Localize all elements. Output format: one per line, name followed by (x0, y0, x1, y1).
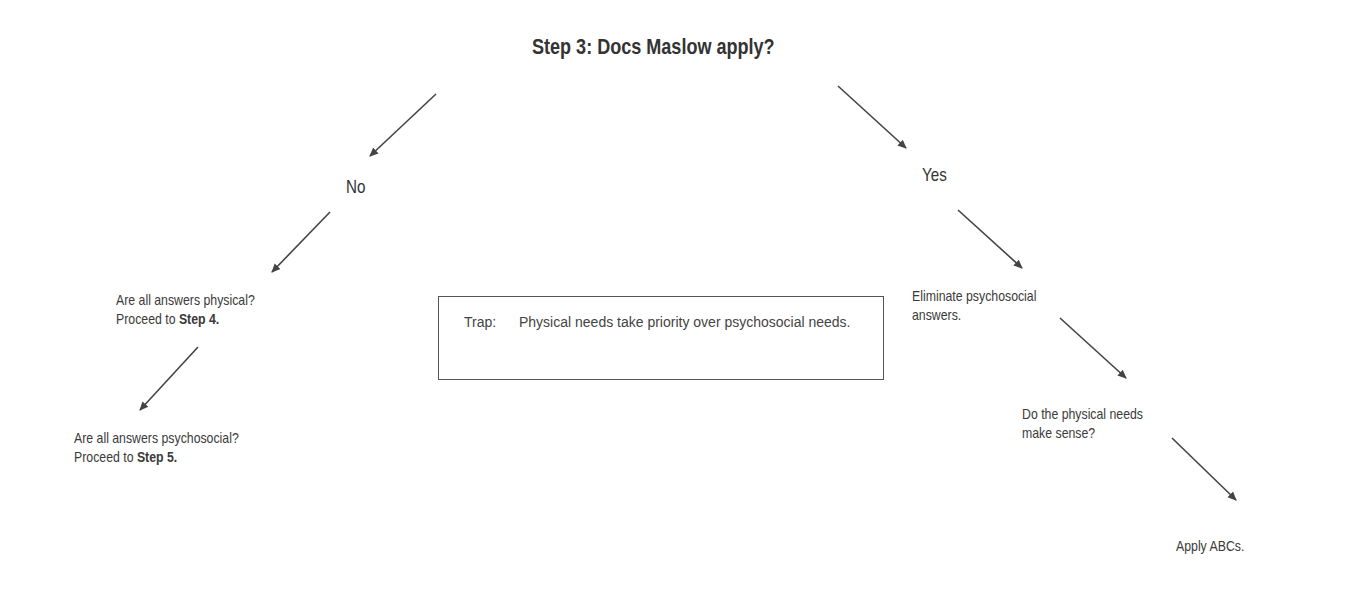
arrow-eliminate-to-physical-needs (1060, 318, 1126, 378)
node-all-psychosocial-question: Are all answers psychosocial? (74, 428, 239, 447)
branch-yes-label: Yes (922, 164, 947, 186)
arrow-title-to-no (370, 94, 436, 156)
arrow-physical-to-psychosocial (140, 347, 198, 410)
trap-callout-box: Trap: Physical needs take priority over … (438, 296, 884, 380)
branch-no-label: No (346, 176, 365, 198)
arrow-no-to-physical (272, 212, 330, 272)
node-eliminate-psychosocial: Eliminate psychosocial answers. (912, 286, 1036, 324)
node-all-physical: Are all answers physical? Proceed to Ste… (116, 290, 255, 328)
node-all-psychosocial-action: Proceed to Step 5. (74, 447, 239, 466)
node-apply-abcs: Apply ABCs. (1176, 536, 1244, 555)
node-all-physical-question: Are all answers physical? (116, 290, 255, 309)
arrow-title-to-yes (838, 86, 906, 148)
node-all-psychosocial: Are all answers psychosocial? Proceed to… (74, 428, 239, 466)
node-all-physical-action: Proceed to Step 4. (116, 309, 255, 328)
diagram-title: Step 3: Docs Maslow apply? (532, 34, 775, 60)
trap-label: Trap: (464, 313, 496, 331)
arrow-yes-to-eliminate (958, 210, 1022, 268)
trap-text: Physical needs take priority over psycho… (519, 313, 879, 331)
arrow-physical-needs-to-apply (1172, 438, 1236, 500)
node-physical-needs-sense: Do the physical needs make sense? (1022, 404, 1143, 442)
